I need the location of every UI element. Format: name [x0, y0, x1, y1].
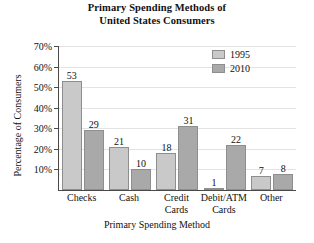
bar-value-label: 22: [231, 134, 241, 145]
bar-chart: Primary Spending Methods of United State…: [0, 0, 314, 243]
bar-value-label: 21: [114, 136, 124, 147]
bar[interactable]: 10: [131, 169, 151, 190]
y-tick-mark: [54, 87, 58, 88]
x-category-label-line: Cards: [195, 204, 254, 216]
legend-item-2010: 2010: [212, 61, 250, 75]
legend-item-1995: 1995: [212, 47, 250, 61]
bar[interactable]: 18: [156, 153, 176, 190]
y-tick-label: 30%: [34, 123, 52, 134]
y-tick-mark: [54, 108, 58, 109]
legend-label-2010: 2010: [230, 63, 250, 74]
y-tick-label: 50%: [34, 82, 52, 93]
y-axis-label: Percentage of Consumers: [12, 51, 23, 201]
bar[interactable]: 7: [251, 176, 271, 190]
y-tick-mark: [54, 67, 58, 68]
plot-area: 10%20%30%40%50%60%70% 53292110183112278: [58, 46, 296, 190]
legend-swatch-2010: [212, 64, 225, 73]
bar-group: 2110: [106, 46, 153, 190]
x-axis-category-labels: ChecksCashCreditCardsDebit/ATMCardsOther: [58, 192, 296, 222]
y-tick-label: 20%: [34, 143, 52, 154]
x-axis-label: Primary Spending Method: [0, 219, 314, 230]
chart-title-line-2: United States Consumers: [0, 15, 314, 28]
legend-label-1995: 1995: [230, 49, 250, 60]
bar-group: 78: [249, 46, 296, 190]
bar[interactable]: 21: [109, 147, 129, 190]
bar-value-label: 31: [183, 115, 193, 126]
bar[interactable]: 53: [62, 81, 82, 190]
bar-value-label: 8: [281, 163, 286, 174]
y-tick-mark: [54, 128, 58, 129]
y-tick-label: 70%: [34, 41, 52, 52]
x-category-label-line: Other: [242, 192, 301, 204]
x-category-label: Other: [242, 192, 301, 204]
y-tick-label: 40%: [34, 102, 52, 113]
bar[interactable]: 1: [204, 188, 224, 190]
bar-group: 5329: [59, 46, 106, 190]
legend: 1995 2010: [212, 47, 250, 75]
y-tick-mark: [54, 169, 58, 170]
bar-group: 1831: [154, 46, 201, 190]
y-tick-mark: [54, 149, 58, 150]
bar[interactable]: 22: [226, 145, 246, 190]
legend-swatch-1995: [212, 50, 225, 59]
bar-value-label: 10: [136, 158, 146, 169]
chart-title-line-1: Primary Spending Methods of: [0, 2, 314, 15]
y-tick-mark: [54, 46, 58, 47]
bars-layer: 53292110183112278: [59, 46, 296, 190]
chart-title: Primary Spending Methods of United State…: [0, 2, 314, 27]
x-axis-line: [58, 190, 296, 191]
bar[interactable]: 29: [84, 130, 104, 190]
bar-value-label: 7: [259, 165, 264, 176]
bar[interactable]: 31: [178, 126, 198, 190]
y-tick-label: 60%: [34, 61, 52, 72]
bar-value-label: 29: [89, 119, 99, 130]
bar[interactable]: 8: [273, 174, 293, 190]
bar-value-label: 1: [211, 177, 216, 188]
bar-value-label: 18: [161, 142, 171, 153]
bar-value-label: 53: [67, 70, 77, 81]
y-tick-label: 10%: [34, 164, 52, 175]
